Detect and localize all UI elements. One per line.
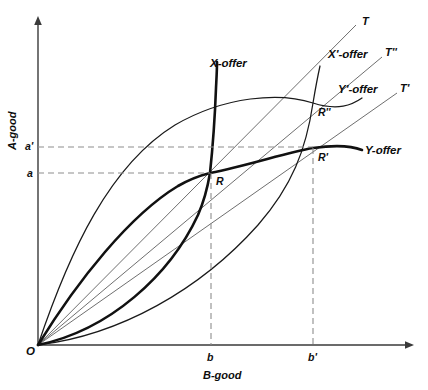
ray-label-T-prime: T' bbox=[400, 83, 409, 94]
ray-label-T-double-prime: T'' bbox=[385, 47, 397, 58]
y-axis-label: A-good bbox=[7, 112, 18, 150]
construction-lines-group bbox=[38, 147, 313, 345]
x-tick-label-b-prime: b' bbox=[308, 352, 317, 363]
y-tick-label-a-prime: a' bbox=[25, 141, 33, 152]
curve-label-x-offer: X-offer bbox=[210, 58, 247, 70]
x-tick-label-b: b bbox=[207, 352, 213, 363]
x-axis-arrowhead bbox=[405, 341, 414, 349]
point-label-R-double-prime: R'' bbox=[318, 107, 331, 118]
curve-label-y-prime-offer: Y'-offer bbox=[338, 84, 378, 96]
ray-T bbox=[38, 25, 356, 345]
x-axis-label: B-good bbox=[203, 370, 241, 381]
y-tick-label-a: a bbox=[27, 168, 33, 179]
point-label-R-prime: R' bbox=[318, 152, 328, 163]
curve-label-y-offer: Y-offer bbox=[365, 145, 401, 157]
curve-Y-offer bbox=[38, 146, 362, 345]
curve-label-x-prime-offer: X'-offer bbox=[328, 49, 368, 61]
y-axis-arrowhead bbox=[34, 16, 42, 25]
point-label-R: R bbox=[216, 176, 224, 187]
offer-curve-diagram: O A-good B-good a' a b b' X-offer X'-off… bbox=[0, 0, 428, 390]
origin-label: O bbox=[26, 346, 35, 358]
ray-T-double-prime bbox=[38, 57, 382, 345]
curve-X-prime-offer bbox=[38, 66, 320, 345]
ray-label-T: T bbox=[362, 16, 369, 27]
